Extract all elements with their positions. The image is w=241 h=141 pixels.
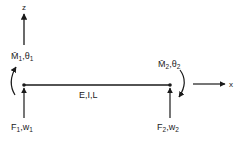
node1-moment-arc-icon (11, 67, 16, 95)
rotation1-subscript: 1 (30, 55, 34, 62)
moment2-symbol: M̄ (158, 59, 166, 69)
node1-moment-rotation-label: M̄1,θ1 (11, 51, 34, 62)
z-axis: z (22, 3, 26, 45)
beam: E,I,L (22, 83, 172, 100)
node2-moment-arc-icon (179, 70, 184, 97)
node2-moment-rotation-label: M̄2,θ2 (158, 59, 181, 70)
node1-force-displacement-label: F1,w1 (11, 122, 33, 133)
disp2-subscript: 2 (175, 126, 179, 133)
node2-dot (168, 83, 172, 87)
z-axis-label: z (22, 3, 26, 12)
x-axis: x (193, 80, 233, 89)
rotation2-subscript: 2 (177, 63, 181, 70)
node1-dot (22, 83, 26, 87)
x-axis-label: x (229, 80, 233, 89)
beam-properties-label: E,I,L (79, 90, 98, 100)
node2-force-displacement-label: F2,w2 (157, 122, 179, 133)
moment1-symbol: M̄ (11, 51, 19, 61)
beam-element-diagram: z M̄1,θ1 E,I,L F1,w1 M̄2,θ2 F2,w2 x (0, 0, 241, 141)
disp1-subscript: 1 (29, 126, 33, 133)
